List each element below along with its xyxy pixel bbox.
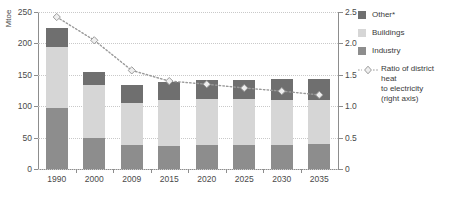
ratio-marker-diamond-icon[interactable] (166, 77, 173, 84)
y-axis-right-tick (339, 75, 343, 76)
x-axis-tick (226, 169, 227, 173)
legend-label-ratio-line3: (right axis) (381, 94, 450, 104)
legend-item-industry[interactable]: Industry (358, 46, 450, 56)
x-axis-tick (151, 169, 152, 173)
y-axis-left-tick (34, 138, 38, 139)
chart-legend: Other* Buildings Industry Ratio of distr… (358, 10, 450, 112)
chart-container: Mtoe 05010015020025000.51.01.52.02.51990… (0, 0, 451, 206)
y-axis-left-tick-label: 50 (6, 134, 32, 143)
legend-label-other: Other* (372, 10, 450, 20)
legend-swatch-industry-icon (358, 47, 366, 55)
legend-label-industry: Industry (372, 46, 450, 56)
y-axis-right-tick (339, 138, 343, 139)
y-axis-left-tick (34, 106, 38, 107)
ratio-marker-diamond-icon[interactable] (241, 84, 248, 91)
legend-item-buildings[interactable]: Buildings (358, 28, 450, 38)
y-axis-left-tick (34, 75, 38, 76)
x-axis-tick (263, 169, 264, 173)
ratio-line-path (57, 17, 320, 95)
y-axis-right-tick-label: 0.5 (345, 134, 371, 143)
x-axis-tick-label: 2035 (297, 175, 341, 184)
legend-label-ratio: Ratio of district heat to electricity (r… (381, 64, 450, 104)
y-axis-right-tick-label: 0 (345, 165, 371, 174)
x-axis-tick (188, 169, 189, 173)
y-axis-left-tick (34, 169, 38, 170)
y-axis-left-tick-label: 200 (6, 39, 32, 48)
y-axis-left-tick (34, 43, 38, 44)
y-axis-right-tick (339, 12, 343, 13)
ratio-marker-diamond-icon[interactable] (316, 91, 323, 98)
ratio-marker-diamond-icon[interactable] (53, 13, 60, 20)
legend-item-ratio[interactable]: Ratio of district heat to electricity (r… (358, 64, 450, 104)
y-axis-right-tick (339, 43, 343, 44)
legend-label-ratio-line1: Ratio of district heat (381, 64, 434, 83)
y-axis-left-title: Mtoe (4, 0, 13, 39)
legend-label-ratio-line2: to electricity (381, 84, 450, 94)
ratio-marker-diamond-icon[interactable] (203, 81, 210, 88)
legend-diamond-marker-icon (358, 65, 378, 75)
y-axis-right-tick (339, 169, 343, 170)
y-axis-left-tick-label: 250 (6, 8, 32, 17)
ratio-marker-diamond-icon[interactable] (278, 88, 285, 95)
x-axis-tick (301, 169, 302, 173)
legend-item-other[interactable]: Other* (358, 10, 450, 20)
y-axis-left-tick (34, 12, 38, 13)
x-axis-tick (76, 169, 77, 173)
y-axis-right-tick (339, 106, 343, 107)
legend-label-buildings: Buildings (372, 28, 450, 38)
legend-swatch-buildings-icon (358, 29, 366, 37)
y-axis-left-tick-label: 100 (6, 102, 32, 111)
y-axis-left-tick-label: 150 (6, 71, 32, 80)
ratio-line-series (38, 12, 339, 169)
legend-swatch-other-icon (358, 11, 366, 19)
x-axis-tick (113, 169, 114, 173)
y-axis-left-tick-label: 0 (6, 165, 32, 174)
